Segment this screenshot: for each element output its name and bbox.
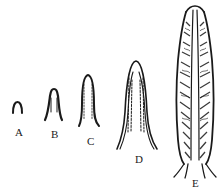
stage-a-drawing: [13, 102, 22, 113]
stage-b-drawing: [45, 89, 62, 120]
developmental-stages-figure: A B C D E: [0, 0, 221, 191]
stage-c-drawing: [79, 75, 99, 126]
stage-d-drawing: [117, 61, 157, 149]
stage-b-label: B: [51, 129, 58, 140]
stage-e-label: E: [192, 178, 199, 189]
stage-d-label: D: [135, 154, 143, 165]
stage-drawings: [0, 0, 221, 191]
stage-c-label: C: [87, 136, 94, 147]
stage-e-drawing: [174, 6, 216, 178]
stage-a-label: A: [15, 127, 23, 138]
